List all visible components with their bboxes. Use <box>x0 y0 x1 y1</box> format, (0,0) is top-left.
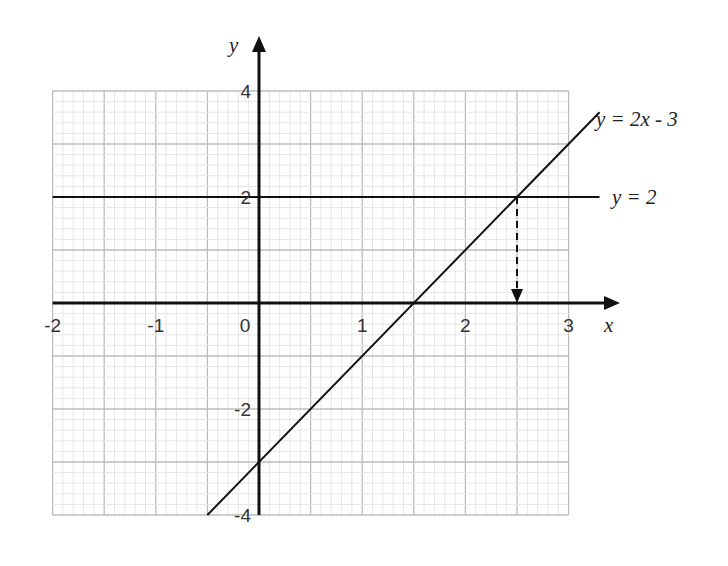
svg-text:2: 2 <box>240 187 251 208</box>
svg-text:1: 1 <box>357 315 368 336</box>
chart: -2-1012342-2-4yxy = 2x - 3y = 2 <box>0 0 728 566</box>
svg-text:4: 4 <box>240 81 251 102</box>
svg-text:y = 2: y = 2 <box>610 185 657 209</box>
svg-text:y: y <box>227 33 239 57</box>
svg-text:-2: -2 <box>234 399 251 420</box>
svg-text:y = 2x - 3: y = 2x - 3 <box>594 107 678 131</box>
svg-text:-4: -4 <box>234 505 251 526</box>
graph-plot: -2-1012342-2-4yxy = 2x - 3y = 2 <box>0 0 728 566</box>
svg-text:-2: -2 <box>44 315 61 336</box>
svg-text:-1: -1 <box>147 315 164 336</box>
svg-text:0: 0 <box>240 315 251 336</box>
svg-text:3: 3 <box>563 315 574 336</box>
svg-text:2: 2 <box>460 315 471 336</box>
svg-text:x: x <box>603 313 614 337</box>
